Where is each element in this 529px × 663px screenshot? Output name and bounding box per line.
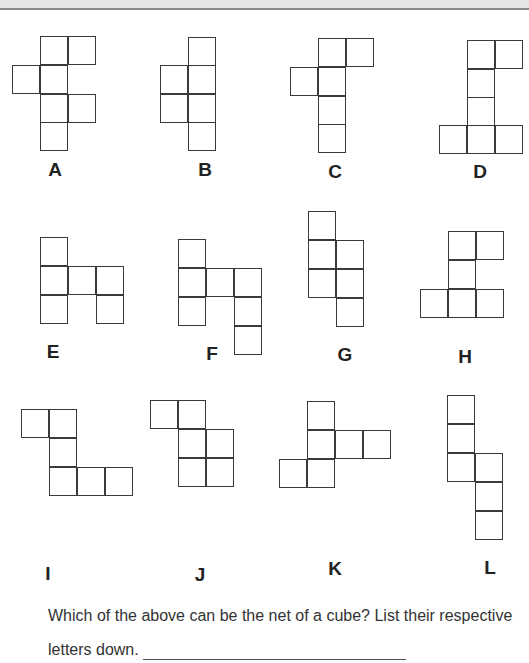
net-square xyxy=(476,289,504,318)
net-label: H xyxy=(458,346,472,368)
net-square xyxy=(178,268,206,297)
net-square xyxy=(234,268,262,297)
net-square xyxy=(307,401,335,430)
net-square xyxy=(495,125,523,154)
net-square xyxy=(447,453,475,482)
net-square xyxy=(178,458,206,487)
net-square xyxy=(40,237,68,266)
net-square xyxy=(49,467,77,496)
net-square xyxy=(467,125,495,154)
net-square xyxy=(448,260,476,289)
net-square xyxy=(188,65,216,94)
net-square xyxy=(68,36,96,65)
net-square xyxy=(40,266,68,295)
net-square xyxy=(21,409,49,438)
net-square xyxy=(475,453,503,482)
net-square xyxy=(290,67,318,96)
net-square xyxy=(308,269,336,298)
net-label: I xyxy=(45,563,50,585)
net-square xyxy=(96,266,124,295)
net-square xyxy=(40,295,68,324)
net-square xyxy=(160,94,188,123)
question-text-line1: Which of the above can be the net of a c… xyxy=(48,607,512,625)
net-label: L xyxy=(484,557,496,579)
net-square xyxy=(336,240,364,269)
net-square xyxy=(234,297,262,326)
net-square xyxy=(363,430,391,459)
net-square xyxy=(475,482,503,511)
net-square xyxy=(40,36,68,65)
net-square xyxy=(467,69,495,98)
net-square xyxy=(178,429,206,458)
question-text-line2: letters down. xyxy=(48,641,139,659)
net-label: K xyxy=(328,558,342,580)
net-square xyxy=(439,125,467,154)
net-square xyxy=(447,395,475,424)
net-square xyxy=(68,94,96,123)
net-square xyxy=(495,40,523,69)
net-square xyxy=(12,65,40,94)
net-square xyxy=(308,211,336,240)
net-square xyxy=(206,429,234,458)
net-square xyxy=(178,297,206,326)
net-square xyxy=(318,96,346,125)
net-square xyxy=(49,409,77,438)
net-square xyxy=(318,67,346,96)
net-square xyxy=(96,295,124,324)
net-label: G xyxy=(338,344,353,366)
net-square xyxy=(308,240,336,269)
net-square xyxy=(40,65,68,94)
net-square xyxy=(105,467,133,496)
net-square xyxy=(476,231,504,260)
net-square xyxy=(318,124,346,153)
net-label: B xyxy=(198,159,212,181)
answer-blank-line[interactable] xyxy=(143,659,406,660)
net-square xyxy=(188,122,216,151)
net-label: J xyxy=(195,564,206,586)
net-square xyxy=(447,424,475,453)
net-square xyxy=(206,268,234,297)
net-square xyxy=(448,289,476,318)
net-square xyxy=(77,467,105,496)
net-square xyxy=(49,438,77,467)
net-square xyxy=(335,430,363,459)
net-label: E xyxy=(47,341,60,363)
net-square xyxy=(346,38,374,67)
net-square xyxy=(420,289,448,318)
net-label: F xyxy=(206,343,218,365)
net-label: A xyxy=(48,159,62,181)
net-label: D xyxy=(473,161,487,183)
net-square xyxy=(234,326,262,355)
net-square xyxy=(68,266,96,295)
net-square xyxy=(40,94,68,123)
net-square xyxy=(178,239,206,268)
net-square xyxy=(279,459,307,488)
net-label: C xyxy=(328,161,342,183)
net-square xyxy=(160,65,188,94)
net-square xyxy=(188,37,216,66)
net-square xyxy=(467,40,495,69)
net-square xyxy=(336,269,364,298)
net-square xyxy=(307,459,335,488)
net-square xyxy=(467,97,495,126)
net-square xyxy=(448,231,476,260)
page-top-edge xyxy=(0,0,529,10)
net-square xyxy=(307,430,335,459)
net-square xyxy=(178,400,206,429)
net-square xyxy=(40,122,68,151)
net-square xyxy=(318,38,346,67)
net-square xyxy=(150,400,178,429)
net-square xyxy=(336,298,364,327)
net-square xyxy=(475,511,503,540)
net-square xyxy=(206,458,234,487)
net-square xyxy=(188,94,216,123)
